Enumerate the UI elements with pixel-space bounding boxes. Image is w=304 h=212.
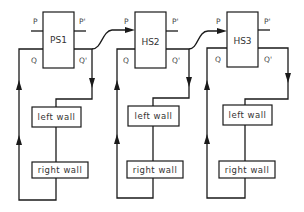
right-wall-label: right wall <box>133 165 178 175</box>
up-arrow-icon <box>204 134 210 144</box>
pin-p-prime-label: P' <box>79 17 86 26</box>
heat-exchanger-diagram: PS1 P P' Q Q' left wall right wall HS2 P… <box>0 0 304 212</box>
left-wall-label: left wall <box>135 111 173 121</box>
pin-p-prime-label: P' <box>264 17 271 26</box>
down-arrow-icon <box>89 78 95 88</box>
left-wall-label: left wall <box>229 110 267 120</box>
connection-ps1-hs2 <box>92 30 128 49</box>
pin-q-label: Q <box>215 55 221 64</box>
down-arrow-icon <box>285 73 291 83</box>
pin-q-label: Q <box>31 56 37 65</box>
stage-label: HS2 <box>141 37 159 47</box>
connection-hs2-hs3 <box>189 31 220 49</box>
right-arrow-icon <box>217 28 227 34</box>
up-arrow-icon <box>114 134 120 144</box>
pin-q-label: Q <box>123 56 129 65</box>
up-arrow-icon <box>16 135 22 145</box>
stage-2: HS2 P P' Q Q' left wall right wall <box>114 12 192 198</box>
up-arrow-icon <box>16 80 22 90</box>
pin-q-prime-label: Q' <box>172 56 180 65</box>
right-wall-label: right wall <box>38 165 83 175</box>
up-arrow-icon <box>114 80 120 90</box>
pin-q-prime-label: Q' <box>264 55 272 64</box>
pin-p-label: P <box>216 17 221 26</box>
pin-q-prime-label: Q' <box>79 56 87 65</box>
pin-p-label: P <box>124 17 129 26</box>
left-wall-label: left wall <box>38 112 76 122</box>
pin-p-label: P <box>33 17 38 26</box>
right-arrow-icon <box>125 27 135 33</box>
up-arrow-icon <box>204 80 210 90</box>
right-wall-label: right wall <box>225 165 270 175</box>
stage-label: HS3 <box>233 36 251 46</box>
pin-p-prime-label: P' <box>172 17 179 26</box>
stage-1: PS1 P P' Q Q' left wall right wall <box>16 12 95 200</box>
stage-label: PS1 <box>50 35 67 45</box>
stage-3: HS3 P P' Q Q' left wall right wall <box>204 12 291 198</box>
down-arrow-icon <box>186 77 192 87</box>
